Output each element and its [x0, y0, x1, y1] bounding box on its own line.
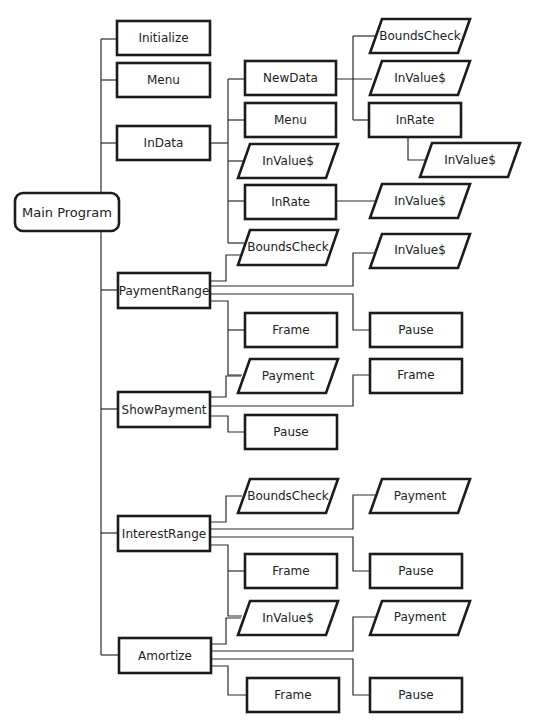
node-label: InValue$: [394, 243, 446, 257]
node-showpayment: ShowPayment: [118, 392, 210, 427]
node-newdata-invalue: InValue$: [370, 61, 470, 95]
node-pr-pause: Pause: [370, 313, 462, 347]
node-label: Payment: [394, 610, 447, 624]
node-label: Pause: [398, 688, 433, 702]
node-label: Frame: [272, 564, 309, 578]
node-main-program: Main Program: [15, 193, 119, 231]
node-indata-inrate: InRate: [245, 185, 336, 219]
node-label: Menu: [147, 73, 180, 87]
node-newdata-boundscheck: BoundsCheck: [370, 19, 470, 53]
node-label: BoundsCheck: [379, 29, 461, 43]
node-am-frame: Frame: [247, 678, 339, 712]
node-indata-newdata: NewData: [245, 61, 336, 95]
node-ir-payment: Payment: [370, 479, 470, 513]
node-sp-frame: Frame: [370, 359, 462, 393]
node-initialize: Initialize: [117, 21, 210, 55]
node-pr-payment: Payment: [238, 359, 338, 393]
node-indata-invalue: InValue$: [238, 144, 338, 178]
node-label: InValue$: [262, 611, 314, 625]
node-newdata-inrate: InRate: [369, 103, 461, 137]
node-label: Payment: [262, 369, 315, 383]
node-ir-pause: Pause: [370, 554, 462, 588]
node-label: InValue$: [262, 154, 314, 168]
node-indata-boundscheck: BoundsCheck: [238, 230, 338, 265]
node-label: Frame: [274, 688, 311, 702]
node-menu: Menu: [117, 63, 210, 97]
node-label: InterestRange: [122, 527, 206, 541]
node-ir-boundscheck: BoundsCheck: [238, 479, 338, 513]
node-label: Main Program: [22, 205, 112, 220]
node-label: ShowPayment: [122, 403, 207, 417]
node-paymentrange: PaymentRange: [118, 273, 210, 308]
node-label: NewData: [263, 71, 318, 85]
node-amortize: Amortize: [119, 638, 211, 673]
node-inrate-invalue: InValue$: [370, 184, 470, 218]
node-label: InRate: [271, 195, 310, 209]
structure-chart: Main Program Initialize Menu InData Paym…: [0, 0, 537, 725]
node-label: InData: [144, 136, 184, 150]
node-am-pause: Pause: [370, 678, 462, 712]
node-label: InValue$: [444, 153, 496, 167]
node-sp-pause: Pause: [245, 415, 337, 449]
node-label: Frame: [397, 368, 434, 382]
node-am-payment: Payment: [370, 601, 470, 635]
node-label: InRate: [396, 113, 435, 127]
node-pr-invalue: InValue$: [370, 234, 470, 268]
node-indata-menu: Menu: [245, 103, 336, 137]
node-label: BoundsCheck: [247, 489, 329, 503]
node-pr-frame: Frame: [245, 313, 337, 347]
node-label: Pause: [398, 323, 433, 337]
node-label: Frame: [272, 323, 309, 337]
node-label: Initialize: [138, 31, 188, 45]
node-newdata-inrate-invalue: InValue$: [420, 143, 520, 177]
node-label: Pause: [273, 425, 308, 439]
node-label: PaymentRange: [119, 284, 210, 298]
node-label: Amortize: [138, 649, 192, 663]
node-interestrange: InterestRange: [118, 516, 210, 551]
node-label: Pause: [398, 564, 433, 578]
node-label: InValue$: [394, 71, 446, 85]
node-ir-invalue: InValue$: [238, 601, 338, 635]
node-label: Menu: [274, 113, 307, 127]
node-label: InValue$: [394, 194, 446, 208]
node-label: Payment: [394, 489, 447, 503]
node-indata: InData: [117, 126, 210, 160]
node-ir-frame: Frame: [245, 554, 337, 588]
node-label: BoundsCheck: [247, 240, 329, 254]
